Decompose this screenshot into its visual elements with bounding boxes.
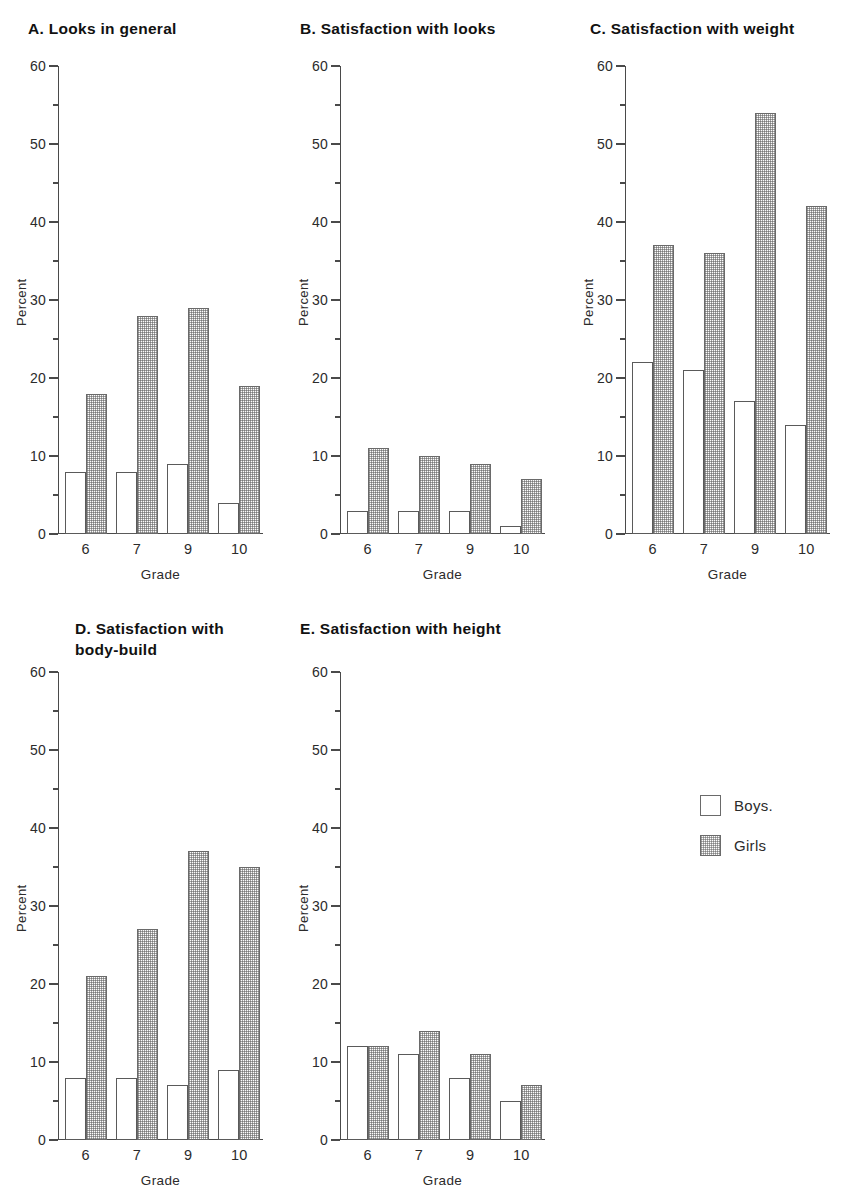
panel-a-group-7: 7 — [116, 66, 158, 534]
panel-e-bar-girls-grade-10 — [521, 1085, 542, 1140]
panel-a-xtick-label: 9 — [167, 541, 209, 557]
panel-e-ytick-major — [331, 905, 340, 906]
panel-a-ytick-label: 20 — [30, 370, 46, 386]
legend-swatch-girls-icon — [700, 835, 721, 856]
panel-a-title: A. Looks in general — [28, 18, 278, 39]
panel-c-ytick-label: 50 — [597, 136, 613, 152]
panel-b-bar-girls-grade-6 — [368, 448, 389, 534]
panel-d-x-axis-label: Grade — [58, 1173, 263, 1186]
panel-b-ytick-label: 0 — [320, 526, 328, 542]
panel-b-ytick-label: 60 — [312, 58, 328, 74]
panel-c-y-axis-label: Percent — [581, 278, 596, 326]
panel-d-ytick-major — [49, 827, 58, 828]
panel-a-ytick-label: 40 — [30, 214, 46, 230]
panel-e-ytick-label: 20 — [312, 976, 328, 992]
panel-a-ytick-major — [49, 377, 58, 378]
panel-c-xtick-label: 7 — [683, 541, 725, 557]
panel-d-bar-girls-grade-10 — [239, 867, 260, 1140]
panel-d-xtick-label: 9 — [167, 1147, 209, 1163]
panel-e-plot: 0102030405060Percent67910 — [340, 672, 545, 1140]
panel-e-xtick-label: 6 — [347, 1147, 389, 1163]
panel-b-ytick-major — [331, 455, 340, 456]
panel-b-y-axis-label: Percent — [296, 278, 311, 326]
panel-a-plot: 0102030405060Percent67910 — [58, 66, 263, 534]
panel-e-ytick-major — [331, 671, 340, 672]
panel-c-ytick-major — [616, 533, 625, 534]
panel-c-xtick-label: 9 — [734, 541, 776, 557]
panel-a-ytick-label: 60 — [30, 58, 46, 74]
panel-b-ytick-label: 40 — [312, 214, 328, 230]
panel-b-xtick-label: 9 — [449, 541, 491, 557]
panel-e-ytick-label: 0 — [320, 1132, 328, 1148]
panel-a-bar-boys-grade-10 — [218, 503, 239, 534]
panel-d-bars: 67910 — [58, 672, 263, 1140]
panel-b-ytick-label: 10 — [312, 448, 328, 464]
panel-a-bars: 67910 — [58, 66, 263, 534]
panel-e-bar-boys-grade-10 — [500, 1101, 521, 1140]
panel-a-ytick-major — [49, 533, 58, 534]
panel-d-ytick-major — [49, 1061, 58, 1062]
panel-d-bar-boys-grade-9 — [167, 1085, 188, 1140]
panel-c-ytick-label: 40 — [597, 214, 613, 230]
figure-root: { "figure": { "background": "#ffffff", "… — [0, 0, 850, 1186]
legend-label-boys: Boys. — [734, 797, 773, 814]
panel-d-group-9: 9 — [167, 672, 209, 1140]
panel-a-bar-girls-grade-7 — [137, 316, 158, 534]
panel-e-ytick-label: 60 — [312, 664, 328, 680]
panel-b-plot: 0102030405060Percent67910 — [340, 66, 545, 534]
panel-b-title: B. Satisfaction with looks — [300, 18, 570, 39]
legend-swatch-boys-icon — [700, 795, 721, 816]
panel-d-bar-girls-grade-6 — [86, 976, 107, 1140]
panel-e-ytick-label: 40 — [312, 820, 328, 836]
panel-e-bar-girls-grade-9 — [470, 1054, 491, 1140]
panel-b-group-6: 6 — [347, 66, 389, 534]
panel-c-ytick-label: 60 — [597, 58, 613, 74]
panel-a-xtick-label: 7 — [116, 541, 158, 557]
panel-b-xtick-label: 6 — [347, 541, 389, 557]
panel-c-group-6: 6 — [632, 66, 674, 534]
panel-a-ytick-label: 50 — [30, 136, 46, 152]
panel-c-ytick-major — [616, 377, 625, 378]
panel-d-ytick-major — [49, 749, 58, 750]
panel-d-ytick-label: 30 — [30, 898, 46, 914]
panel-c-bar-boys-grade-7 — [683, 370, 704, 534]
panel-b-ytick-major — [331, 221, 340, 222]
panel-d-group-6: 6 — [65, 672, 107, 1140]
panel-e-xtick-label: 10 — [500, 1147, 542, 1163]
panel-e-xtick-label: 7 — [398, 1147, 440, 1163]
panel-a-bar-girls-grade-9 — [188, 308, 209, 534]
panel-e-ytick-label: 30 — [312, 898, 328, 914]
panel-b-bar-boys-grade-9 — [449, 511, 470, 534]
panel-e-group-7: 7 — [398, 672, 440, 1140]
panel-e-group-10: 10 — [500, 672, 542, 1140]
panel-c-ytick-label: 10 — [597, 448, 613, 464]
panel-c-group-9: 9 — [734, 66, 776, 534]
panel-c-ytick-major — [616, 221, 625, 222]
panel-b-bar-boys-grade-6 — [347, 511, 368, 534]
panel-e-bar-boys-grade-7 — [398, 1054, 419, 1140]
panel-b-group-9: 9 — [449, 66, 491, 534]
panel-c-ytick-major — [616, 143, 625, 144]
panel-a-bar-boys-grade-6 — [65, 472, 86, 534]
panel-a-ytick-major — [49, 143, 58, 144]
panel-a-ytick-label: 10 — [30, 448, 46, 464]
panel-e-bar-boys-grade-6 — [347, 1046, 368, 1140]
panel-c-bars: 67910 — [625, 66, 830, 534]
panel-e-bar-girls-grade-6 — [368, 1046, 389, 1140]
chart-legend: Boys.Girls — [700, 795, 773, 875]
panel-c-title: C. Satisfaction with weight — [590, 18, 850, 39]
panel-b-ytick-major — [331, 65, 340, 66]
panel-d-bar-girls-grade-7 — [137, 929, 158, 1140]
panel-e-ytick-major — [331, 827, 340, 828]
panel-c-ytick-major — [616, 65, 625, 66]
panel-d-bar-boys-grade-10 — [218, 1070, 239, 1140]
panel-e-bar-boys-grade-9 — [449, 1078, 470, 1140]
panel-b-ytick-major — [331, 533, 340, 534]
panel-d-bar-girls-grade-9 — [188, 851, 209, 1140]
panel-a-xtick-label: 10 — [218, 541, 260, 557]
legend-item-boys: Boys. — [700, 795, 773, 816]
panel-e-ytick-label: 10 — [312, 1054, 328, 1070]
panel-c-x-axis-label: Grade — [625, 567, 830, 582]
panel-a-ytick-major — [49, 65, 58, 66]
panel-a-ytick-label: 30 — [30, 292, 46, 308]
